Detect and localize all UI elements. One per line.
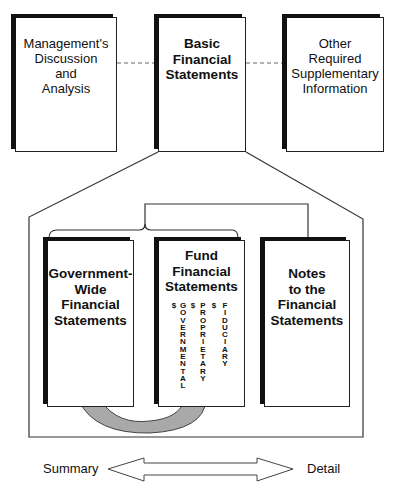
vertical-letter: Y [220, 360, 230, 367]
box-shadow [282, 14, 380, 18]
curly-bracket [49, 224, 238, 238]
box-shadow [154, 237, 241, 241]
mdna-box: Management's Discussion and Analysis [15, 17, 117, 152]
text-line: Fund [159, 248, 244, 264]
text-line: Supplementary [287, 66, 383, 81]
text-line: Required [287, 51, 383, 66]
basic-financial-statements-label: Basic Financial Statements [159, 36, 245, 83]
text-line: Management's [16, 36, 116, 51]
text-line: Statements [159, 67, 245, 83]
fund-column-proprietary: PROPRIETARY [198, 302, 208, 382]
government-wide-box: Government- Wide Financial Statements [47, 240, 134, 407]
text-line: Financial [159, 52, 245, 68]
detail-label: Detail [307, 461, 340, 476]
text-line: to the [265, 282, 349, 298]
text-line: Government- [48, 266, 133, 282]
text-line: Statements [48, 313, 133, 329]
mdna-label: Management's Discussion and Analysis [16, 36, 116, 96]
fund-column-governmental: GOVERNMENTAL [178, 302, 188, 390]
summary-detail-double-arrow [108, 458, 293, 481]
text-line: Statements [159, 279, 244, 295]
vertical-letter: Y [198, 375, 208, 382]
box-shadow [11, 14, 113, 18]
notes-label: Notes to the Financial Statements [265, 266, 349, 328]
other-rsi-label: Other Required Supplementary Information [287, 36, 383, 96]
text-line: Financial [159, 264, 244, 280]
fund-financial-statements-label: Fund Financial Statements [159, 248, 244, 295]
box-shadow [154, 14, 242, 18]
text-line: Information [287, 81, 383, 96]
text-line: Financial [48, 297, 133, 313]
text-line: Wide [48, 282, 133, 298]
vertical-letter: L [178, 382, 188, 389]
text-line: Notes [265, 266, 349, 282]
government-wide-label: Government- Wide Financial Statements [48, 266, 133, 328]
text-line: Other [287, 36, 383, 51]
text-line: and [16, 66, 116, 81]
text-line: Analysis [16, 81, 116, 96]
basic-financial-statements-box: Basic Financial Statements [158, 17, 246, 152]
text-line: Basic [159, 36, 245, 52]
upper-bracket [145, 204, 308, 238]
text-line: Statements [265, 313, 349, 329]
summary-label: Summary [43, 461, 99, 476]
text-line: Financial [265, 297, 349, 313]
other-rsi-box: Other Required Supplementary Information [286, 17, 384, 152]
fund-symbol-proprietary: $ [188, 302, 198, 309]
fund-column-fiduciary: FIDUCIARY [220, 302, 230, 368]
box-shadow [260, 237, 346, 241]
text-line: Discussion [16, 51, 116, 66]
box-shadow [43, 237, 130, 241]
fund-symbol-fiduciary: $ [209, 302, 219, 309]
notes-box: Notes to the Financial Statements [264, 240, 350, 407]
